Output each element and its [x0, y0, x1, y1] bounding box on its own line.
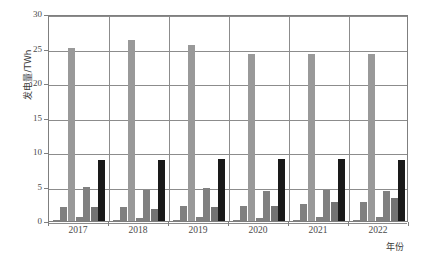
bar [180, 206, 187, 221]
bar [98, 160, 105, 221]
bar [263, 191, 270, 221]
bar [83, 187, 90, 222]
bar [151, 209, 158, 221]
x-tick-mark [288, 222, 289, 226]
gridline-horizontal [49, 16, 407, 17]
bar [398, 160, 405, 221]
bar [383, 191, 390, 221]
x-tick-mark [108, 222, 109, 226]
bar [300, 204, 307, 221]
chart-container: 发电量/TWh 051015202530 2017201820192020202… [0, 0, 426, 257]
bar [316, 217, 323, 221]
y-tick-label: 0 [20, 217, 42, 226]
gridline-horizontal [49, 85, 407, 86]
gridline-horizontal [49, 51, 407, 52]
x-tick-label: 2022 [353, 226, 403, 236]
gridline-horizontal [49, 120, 407, 121]
bar [218, 159, 225, 221]
gridline-vertical [229, 16, 230, 221]
y-tick-label: 15 [20, 114, 42, 123]
bar [158, 160, 165, 221]
y-tick-label: 25 [20, 45, 42, 54]
gridline-vertical [109, 16, 110, 221]
bar [128, 40, 135, 221]
bar [323, 190, 330, 221]
x-tick-label: 2018 [113, 226, 163, 236]
bar [360, 202, 367, 221]
bar [76, 217, 83, 221]
gridline-vertical [289, 16, 290, 221]
x-tick-mark [408, 222, 409, 226]
bar [331, 202, 338, 221]
bar [68, 48, 75, 221]
bar [120, 207, 127, 221]
x-tick-label: 2019 [173, 226, 223, 236]
bar [173, 220, 180, 221]
y-tick-label: 5 [20, 183, 42, 192]
gridline-vertical [169, 16, 170, 221]
bar [196, 217, 203, 221]
bar [240, 206, 247, 221]
x-tick-label: 2021 [293, 226, 343, 236]
bar [248, 54, 255, 221]
x-axis-title: 年份 [386, 240, 404, 253]
bar [203, 188, 210, 221]
x-tick-mark [48, 222, 49, 226]
bar [308, 54, 315, 221]
bar [376, 217, 383, 221]
bar [91, 207, 98, 221]
bar [338, 159, 345, 221]
bar [113, 220, 120, 221]
gridline-vertical [349, 16, 350, 221]
y-tick-label: 10 [20, 148, 42, 157]
x-tick-mark [348, 222, 349, 226]
bar [256, 218, 263, 221]
bar [271, 206, 278, 221]
bar [368, 54, 375, 221]
x-tick-label: 2020 [233, 226, 283, 236]
bar [136, 218, 143, 221]
x-tick-mark [168, 222, 169, 226]
gridline-horizontal [49, 154, 407, 155]
bar [188, 45, 195, 221]
bar [60, 207, 67, 221]
bar [293, 220, 300, 221]
x-tick-label: 2017 [53, 226, 103, 236]
bar [353, 220, 360, 221]
y-tick-label: 20 [20, 79, 42, 88]
bar [278, 159, 285, 221]
plot-area [48, 15, 408, 222]
bar [53, 220, 60, 221]
bar [391, 198, 398, 221]
bar [211, 207, 218, 221]
bar [233, 220, 240, 221]
y-tick-label: 30 [20, 10, 42, 19]
bar [143, 190, 150, 221]
x-tick-mark [228, 222, 229, 226]
